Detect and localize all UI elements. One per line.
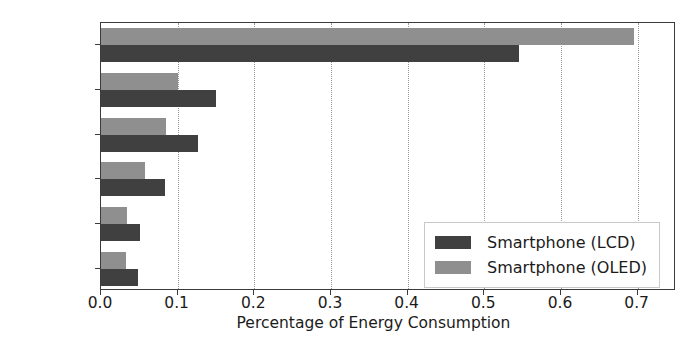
bar-lcd-graphics (101, 135, 198, 152)
x-tick-label-0.1: 0.1 (147, 294, 207, 312)
bar-group-graphics (101, 118, 674, 152)
legend-swatch-lcd (435, 236, 471, 249)
y-tick-mark-gsm (95, 178, 100, 179)
gridline-x-0.4 (408, 23, 410, 289)
x-tick-label-0.5: 0.5 (453, 294, 513, 312)
bar-lcd-gsm (101, 179, 165, 196)
x-tick-label-0.3: 0.3 (300, 294, 360, 312)
y-tick-mark-ram (95, 223, 100, 224)
gridline-x-0.2 (254, 23, 256, 289)
legend-label-lcd: Smartphone (LCD) (487, 233, 635, 252)
x-tick-mark-0.1 (177, 290, 178, 295)
bar-lcd-ram (101, 224, 140, 241)
bar-oled-gsm (101, 162, 145, 179)
y-tick-mark-display (95, 44, 100, 45)
bar-group-gsm (101, 162, 674, 196)
x-tick-mark-0.4 (407, 290, 408, 295)
bar-group-cpu (101, 73, 674, 107)
x-tick-mark-0.0 (100, 290, 101, 295)
x-tick-mark-0.3 (330, 290, 331, 295)
bar-oled-rest (101, 252, 126, 269)
x-tick-label-0.0: 0.0 (70, 294, 130, 312)
bar-oled-display (101, 28, 634, 45)
x-tick-label-0.2: 0.2 (223, 294, 283, 312)
legend-label-oled: Smartphone (OLED) (487, 258, 647, 277)
x-tick-mark-0.7 (637, 290, 638, 295)
x-tick-mark-0.2 (253, 290, 254, 295)
x-tick-mark-0.5 (483, 290, 484, 295)
x-tick-label-0.6: 0.6 (530, 294, 590, 312)
legend-swatch-oled (435, 261, 471, 274)
x-axis-label-text: Percentage of Energy Consumption (237, 314, 511, 332)
bar-lcd-cpu (101, 90, 216, 107)
x-axis-label: Percentage of Energy Consumption (0, 314, 687, 332)
x-tick-label-0.4: 0.4 (377, 294, 437, 312)
y-tick-mark-cpu (95, 89, 100, 90)
x-tick-label-0.7: 0.7 (607, 294, 667, 312)
gridline-x-0.1 (178, 23, 180, 289)
legend: Smartphone (LCD)Smartphone (OLED) (424, 222, 660, 288)
y-tick-mark-graphics (95, 134, 100, 135)
bar-chart-figure: DisplayCPUGraphicsGSMRAMRest 0.00.10.20.… (0, 0, 687, 342)
bar-oled-graphics (101, 118, 166, 135)
gridline-x-0.3 (331, 23, 333, 289)
bar-lcd-rest (101, 269, 138, 286)
y-tick-mark-rest (95, 268, 100, 269)
bar-lcd-display (101, 45, 519, 62)
legend-entry-lcd[interactable]: Smartphone (LCD) (435, 230, 647, 255)
legend-entry-oled[interactable]: Smartphone (OLED) (435, 255, 647, 280)
bar-oled-cpu (101, 73, 178, 90)
bar-oled-ram (101, 207, 127, 224)
x-tick-mark-0.6 (560, 290, 561, 295)
bar-group-display (101, 28, 674, 62)
